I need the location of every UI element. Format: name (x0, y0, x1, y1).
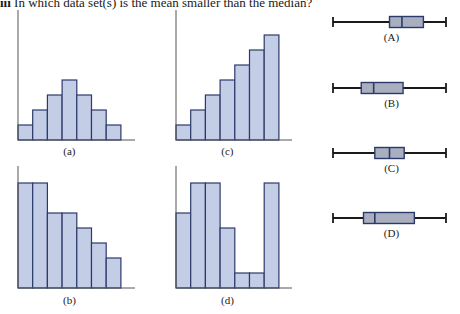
boxplot-caption: (B) (384, 97, 399, 110)
histogram-bar (77, 228, 92, 288)
histogram-bar (62, 213, 77, 288)
histogram-bar (33, 110, 48, 140)
histogram-bar (264, 35, 279, 140)
histogram-bar (33, 183, 48, 288)
boxplot-D: (D) (333, 213, 446, 241)
histogram-bar (264, 183, 279, 288)
boxplot-A: (A) (333, 17, 446, 45)
boxplot-caption: (A) (384, 31, 400, 44)
boxplot-B: (B) (333, 83, 446, 111)
histogram-caption: (a) (63, 145, 76, 158)
histogram-bar (106, 258, 121, 288)
histogram-bar (106, 125, 121, 140)
box-iqr (364, 213, 415, 224)
histogram-bar (47, 213, 62, 288)
boxplot-C: (C) (333, 148, 446, 176)
histogram-bar (18, 125, 33, 140)
histogram-bar (176, 125, 191, 140)
histogram-bar (191, 183, 206, 288)
histogram-bar (92, 110, 107, 140)
histogram-c: (c) (176, 10, 292, 158)
histogram-bar (77, 95, 92, 140)
histogram-d: (d) (176, 166, 292, 307)
box-iqr (361, 83, 403, 94)
histogram-bar (250, 273, 265, 288)
histogram-caption: (c) (221, 145, 234, 158)
histogram-bar (176, 213, 191, 288)
box-iqr (390, 17, 424, 28)
histogram-b: (b) (18, 166, 135, 307)
histogram-bar (235, 65, 250, 140)
histogram-bar (191, 110, 206, 140)
histogram-bar (92, 243, 107, 288)
histogram-bar (47, 95, 62, 140)
histogram-bar (205, 183, 220, 288)
histogram-caption: (b) (63, 294, 76, 307)
figure-canvas: (a)(b)(c)(d)(A)(B)(C)(D) (0, 0, 460, 314)
histogram-caption: (d) (221, 294, 234, 307)
histogram-bar (250, 50, 265, 140)
histogram-bar (62, 80, 77, 140)
boxplot-caption: (C) (384, 162, 399, 175)
histogram-bar (205, 95, 220, 140)
histogram-bar (235, 273, 250, 288)
histogram-bar (220, 228, 235, 288)
histogram-bar (18, 183, 33, 288)
histogram-bar (220, 80, 235, 140)
histogram-a: (a) (18, 10, 135, 158)
boxplot-caption: (D) (384, 227, 400, 240)
